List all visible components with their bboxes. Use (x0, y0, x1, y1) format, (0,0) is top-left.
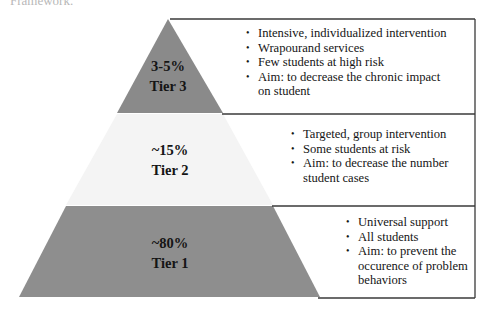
tier2-bullet: Some students at risk (291, 142, 471, 157)
tier1-bullet: Universal support (346, 215, 474, 230)
tier3-percent: 3-5% (123, 56, 213, 76)
tier1-bullet: All students (346, 230, 474, 245)
tier2-label: ~15% Tier 2 (125, 140, 215, 180)
tier3-bullet: Wrapourand services (246, 41, 471, 56)
tier2-description: Targeted, group intervention Some studen… (291, 127, 471, 185)
tier1-percent: ~80% (125, 233, 215, 253)
tier3-name: Tier 3 (123, 76, 213, 96)
tier3-bullet: Few students at high risk (246, 55, 471, 70)
tier3-bullet: Aim: to decrease the chronic impact on s… (246, 70, 448, 99)
tier3-bullet: Intensive, individualized intervention (246, 26, 471, 41)
tier3-description: Intensive, individualized intervention W… (246, 26, 471, 99)
tier2-bullet: Aim: to decrease the number student case… (291, 156, 468, 185)
tier1-description: Universal support All students Aim: to p… (346, 215, 474, 288)
tier1-label: ~80% Tier 1 (125, 233, 215, 273)
tier2-name: Tier 2 (125, 160, 215, 180)
tier3-label: 3-5% Tier 3 (123, 56, 213, 96)
tier1-bullet: Aim: to prevent the occurence of problem… (346, 244, 470, 288)
tier2-bullet: Targeted, group intervention (291, 127, 471, 142)
tier1-name: Tier 1 (125, 253, 215, 273)
tier2-percent: ~15% (125, 140, 215, 160)
